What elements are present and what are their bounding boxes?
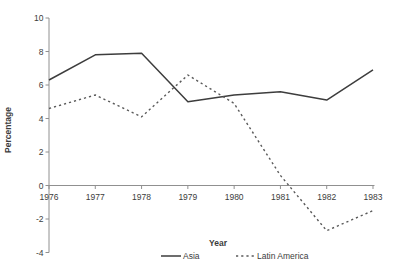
y-tick-label: -2 (36, 214, 44, 224)
line-chart-canvas: 1086420-2-4 1976197719781979198019811982… (0, 0, 397, 274)
y-tick-label: 4 (39, 114, 44, 124)
asia-line (49, 53, 373, 102)
line-chart-figure: 1086420-2-4 1976197719781979198019811982… (0, 0, 397, 274)
y-axis-ticks: 1086420-2-4 (34, 13, 49, 258)
x-tick-label: 1979 (178, 192, 197, 202)
x-tick-label: 1976 (40, 192, 59, 202)
y-axis-title: Percentage (3, 107, 13, 153)
x-axis-ticks: 19761977197819791980198119821983 (40, 186, 383, 203)
y-tick-label: -4 (36, 248, 44, 258)
y-tick-label: 8 (39, 47, 44, 57)
x-tick-label: 1977 (86, 192, 105, 202)
axes (49, 18, 374, 253)
y-tick-label: 6 (39, 80, 44, 90)
legend-asia-label: Asia (183, 251, 200, 261)
x-tick-label: 1983 (364, 192, 383, 202)
x-tick-label: 1981 (271, 192, 290, 202)
x-tick-label: 1978 (132, 192, 151, 202)
legend: Asia Latin America (161, 251, 309, 261)
data-series (49, 53, 373, 231)
y-tick-label: 0 (39, 181, 44, 191)
legend-latin-america-label: Latin America (257, 251, 309, 261)
x-axis-title: Year (209, 238, 228, 248)
y-tick-label: 2 (39, 147, 44, 157)
x-tick-label: 1980 (225, 192, 244, 202)
y-tick-label: 10 (34, 13, 44, 23)
x-tick-label: 1982 (317, 192, 336, 202)
